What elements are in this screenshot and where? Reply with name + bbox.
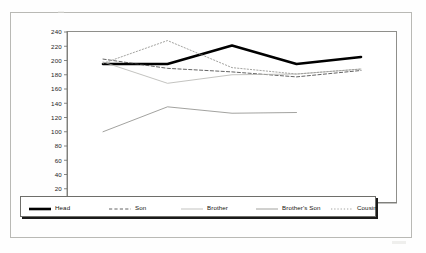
- y-tick-label: 120: [40, 114, 62, 121]
- scan-artifact: [58, 11, 64, 13]
- y-tick-label: 240: [40, 28, 62, 35]
- legend-item[interactable]: Brother: [181, 201, 228, 214]
- legend-swatch-icon: [181, 199, 203, 217]
- legend-swatch-icon: [109, 199, 131, 217]
- legend-label: Son: [135, 204, 146, 211]
- legend-label: Cousin: [357, 204, 377, 211]
- chart-legend: HeadSonBrotherBrother's SonCousin: [20, 196, 376, 217]
- legend-item[interactable]: Head: [29, 201, 70, 214]
- legend-label: Brother's Son: [282, 204, 321, 211]
- y-tick-label: 40: [40, 171, 62, 178]
- scanned-page: 020406080100120140160180200220240 21-252…: [0, 0, 426, 253]
- legend-swatch-icon: [331, 199, 353, 217]
- legend-label: Brother: [207, 204, 228, 211]
- y-tick-label: 100: [40, 128, 62, 135]
- y-tick-label: 140: [40, 100, 62, 107]
- legend-swatch-icon: [29, 199, 51, 217]
- y-tick-label: 180: [40, 71, 62, 78]
- series-line: [103, 46, 361, 65]
- y-tick-label: 160: [40, 85, 62, 92]
- scan-artifact: [392, 241, 406, 244]
- legend-item[interactable]: Brother's Son: [256, 201, 321, 214]
- series-line: [103, 107, 297, 132]
- y-tick-label: 220: [40, 43, 62, 50]
- y-tick-label: 80: [40, 142, 62, 149]
- y-tick-label: 60: [40, 157, 62, 164]
- y-tick-label: 20: [40, 185, 62, 192]
- legend-swatch-icon: [256, 199, 278, 217]
- legend-item[interactable]: Son: [109, 201, 146, 214]
- y-tick-label: 200: [40, 57, 62, 64]
- legend-item[interactable]: Cousin: [331, 201, 377, 214]
- legend-label: Head: [55, 204, 70, 211]
